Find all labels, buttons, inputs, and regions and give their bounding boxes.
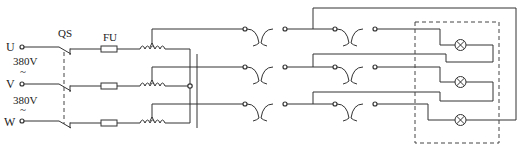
fu-label: FU [103,31,117,43]
qs-label: QS [58,27,72,39]
row-2-contacts [230,45,493,84]
ac-symbol-uv: ~ [20,65,26,77]
lamp-1-icon [455,40,466,51]
row-3-contacts [230,82,516,121]
circuit-diagram: U V W 380V ~ 380V ~ QS FU [0,0,525,150]
autotransformer-coils [140,29,230,128]
ac-symbol-vw: ~ [20,103,26,115]
lamps [455,40,466,126]
phase-w-label: W [4,115,16,129]
fuse-fu [101,46,140,126]
phase-u-label: U [6,40,15,54]
lamp-2-icon [455,77,466,88]
lamp-3-icon [455,115,466,126]
phase-v-label: V [6,77,15,91]
